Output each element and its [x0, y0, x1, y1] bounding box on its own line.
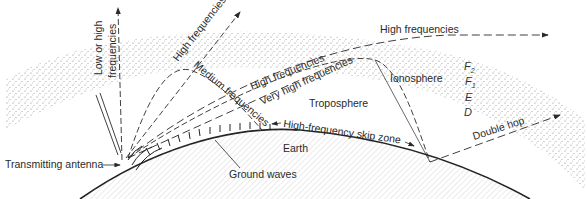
label-low-or-high-2: frequencies — [106, 24, 118, 78]
earth-hatching — [80, 129, 530, 199]
label-transmitting-antenna: Transmitting antenna — [5, 158, 103, 170]
radio-propagation-diagram: Low or high frequencies High frequencies… — [0, 0, 587, 199]
label-medium-frequencies: Medium frequencies — [192, 58, 272, 128]
label-troposphere: Troposphere — [309, 97, 368, 109]
label-low-or-high-1: Low or high — [92, 21, 104, 75]
label-earth: Earth — [283, 142, 308, 154]
label-high-frequencies-top: High frequencies — [380, 23, 459, 35]
label-ground-waves: Ground waves — [229, 168, 297, 180]
label-ionosphere: Ionosphere — [390, 72, 443, 84]
layer-e: E — [465, 91, 473, 103]
layer-d: D — [464, 106, 472, 118]
